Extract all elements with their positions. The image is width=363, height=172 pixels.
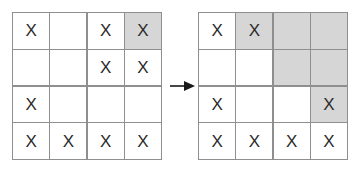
- grid-cell: X: [125, 123, 161, 159]
- grid-cell: [50, 50, 86, 86]
- x-mark: X: [25, 132, 36, 149]
- grid-cell: [311, 13, 347, 49]
- x-mark: X: [211, 95, 222, 112]
- grid-cell: X: [125, 13, 161, 49]
- arrow-right-icon: [170, 78, 196, 94]
- grid-transformation-figure: XXXXXXXXXX XXXXXXXX: [0, 0, 363, 172]
- x-mark: X: [100, 22, 111, 39]
- grid-cell: X: [88, 123, 124, 159]
- grid-cell: X: [50, 123, 86, 159]
- x-mark: X: [63, 132, 74, 149]
- grid-cell: X: [199, 87, 235, 123]
- grid-cell: X: [13, 13, 49, 49]
- grid-cell: [50, 13, 86, 49]
- grid-cell: [13, 50, 49, 86]
- x-mark: X: [286, 132, 297, 149]
- grid-cell: X: [311, 87, 347, 123]
- grid-cell: X: [274, 123, 310, 159]
- x-mark: X: [249, 132, 260, 149]
- x-mark: X: [137, 59, 148, 76]
- grid-cell: X: [236, 13, 272, 49]
- x-mark: X: [211, 22, 222, 39]
- x-mark: X: [25, 22, 36, 39]
- right-grid: XXXXXXXX: [198, 12, 348, 160]
- grid-cell: X: [125, 50, 161, 86]
- x-mark: X: [100, 132, 111, 149]
- grid-cell: X: [88, 13, 124, 49]
- grid-cell: [311, 50, 347, 86]
- x-mark: X: [323, 95, 334, 112]
- grid-cell: [50, 87, 86, 123]
- grid-cell: [125, 87, 161, 123]
- left-grid: XXXXXXXXXX: [12, 12, 162, 160]
- grid-cell: X: [311, 123, 347, 159]
- grid-cell: X: [13, 87, 49, 123]
- grid-cell: [88, 87, 124, 123]
- grid-cell: X: [236, 123, 272, 159]
- x-mark: X: [137, 132, 148, 149]
- grid-cell: [274, 50, 310, 86]
- grid-cell: [274, 13, 310, 49]
- grid-cell: [236, 87, 272, 123]
- x-mark: X: [25, 95, 36, 112]
- grid-cell: X: [88, 50, 124, 86]
- x-mark: X: [211, 132, 222, 149]
- grid-cell: [236, 50, 272, 86]
- arrow-right-glyph: [170, 78, 196, 94]
- x-mark: X: [137, 22, 148, 39]
- x-mark: X: [249, 22, 260, 39]
- grid-cell: [274, 87, 310, 123]
- grid-cell: X: [13, 123, 49, 159]
- x-mark: X: [323, 132, 334, 149]
- grid-cell: X: [199, 13, 235, 49]
- x-mark: X: [100, 59, 111, 76]
- grid-cell: [199, 50, 235, 86]
- grid-cell: X: [199, 123, 235, 159]
